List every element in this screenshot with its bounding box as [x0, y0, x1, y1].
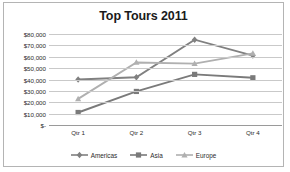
y-axis-tick-label: $-	[4, 122, 46, 129]
x-axis-tick-label: Qtr 4	[246, 129, 260, 136]
legend-marker-square-icon	[130, 151, 147, 159]
y-axis-tick-label: $40,000	[4, 76, 46, 83]
y-axis-tick-label: $70,000	[4, 42, 46, 49]
data-point-marker	[76, 152, 82, 158]
data-point-marker	[192, 72, 197, 77]
y-axis-tick-label: $20,000	[4, 99, 46, 106]
x-axis-tick-label: Qtr 3	[188, 129, 202, 136]
gridline	[49, 80, 282, 81]
gridline	[49, 68, 282, 69]
chart-title: Top Tours 2011	[4, 9, 283, 23]
legend-label: Asia	[150, 152, 162, 159]
x-axis-labels: Qtr 1Qtr 2Qtr 3Qtr 4	[49, 129, 282, 141]
plot-area	[49, 34, 282, 125]
gridline	[49, 102, 282, 103]
y-axis-labels: $80,000$70,000$60,000$50,000$40,000$30,0…	[4, 34, 46, 125]
y-axis-tick-label: $50,000	[4, 65, 46, 72]
y-axis-tick-label: $10,000	[4, 110, 46, 117]
chart-container: Top Tours 2011 $80,000$70,000$60,000$50,…	[3, 2, 284, 167]
legend-item-europe[interactable]: Europe	[176, 151, 217, 159]
gridline	[49, 45, 282, 46]
legend-label: Americas	[91, 152, 118, 159]
legend-item-americas[interactable]: Americas	[71, 151, 118, 159]
legend-label: Europe	[196, 152, 217, 159]
data-point-marker	[136, 152, 141, 157]
legend-marker-triangle-icon	[176, 151, 193, 159]
x-axis-tick-label: Qtr 2	[129, 129, 143, 136]
legend-item-asia[interactable]: Asia	[130, 151, 162, 159]
gridline	[49, 34, 282, 35]
legend-marker-diamond-icon	[71, 151, 88, 159]
gridline	[49, 114, 282, 115]
gridline	[49, 57, 282, 58]
y-axis-tick-label: $30,000	[4, 87, 46, 94]
y-axis-tick-label: $60,000	[4, 53, 46, 60]
x-axis-line	[49, 125, 282, 126]
gridline	[49, 91, 282, 92]
chart-legend: AmericasAsiaEurope	[4, 151, 283, 159]
y-axis-tick-label: $80,000	[4, 31, 46, 38]
x-axis-tick-label: Qtr 1	[71, 129, 85, 136]
